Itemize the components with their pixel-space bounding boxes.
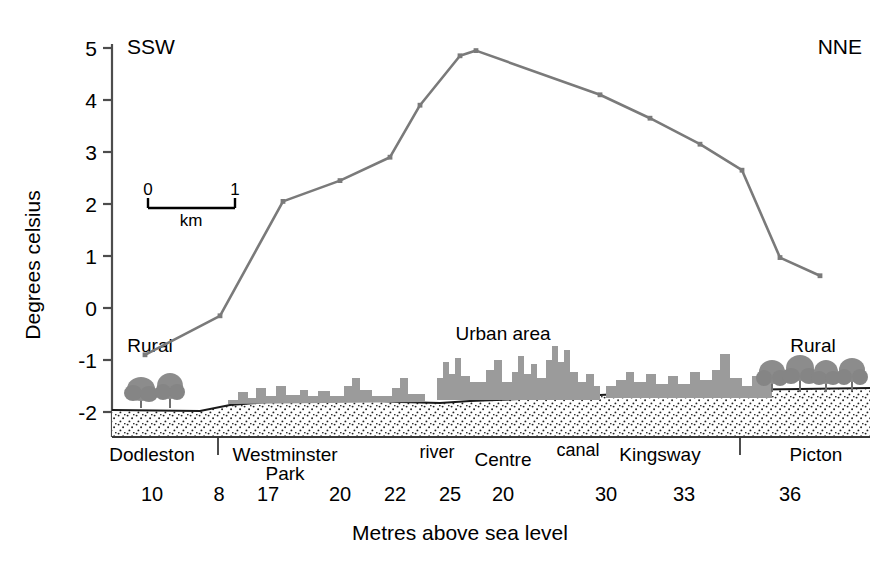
data-point-marker (740, 168, 745, 173)
elevation-number: 8 (213, 483, 224, 505)
place-label: Dodleston (109, 444, 195, 465)
orientation-label-right: NNE (818, 35, 862, 58)
urban-heat-island-chart: 5 4 3 2 1 0 -1 -2 Degrees celsius SSW NN… (0, 0, 891, 570)
scale-bar-right-label: 1 (230, 180, 239, 199)
data-point-marker (338, 178, 343, 183)
y-tick-label: 3 (85, 141, 97, 164)
data-point-marker (598, 92, 603, 97)
elevation-number: 36 (779, 483, 801, 505)
data-point-marker (388, 155, 393, 160)
data-point-marker (698, 142, 703, 147)
elevation-number: 22 (384, 483, 406, 505)
data-point-marker (281, 199, 286, 204)
y-axis-title: Degrees celsius (21, 190, 44, 339)
scale-bar-unit-label: km (180, 211, 203, 230)
place-label: Picton (790, 444, 843, 465)
urban-area-label: Urban area (455, 323, 550, 344)
elevation-number: 25 (439, 483, 461, 505)
data-point-marker (143, 352, 148, 357)
elevation-number: 10 (141, 483, 163, 505)
place-label: Kingsway (619, 444, 701, 465)
data-point-marker (818, 273, 823, 278)
data-point-marker (648, 116, 653, 121)
data-point-marker (218, 313, 223, 318)
place-label: canal (556, 440, 599, 460)
rural-label-right: Rural (790, 335, 835, 356)
elevation-number: 33 (673, 483, 695, 505)
data-point-marker (458, 53, 463, 58)
y-tick-label: 0 (85, 297, 97, 320)
y-tick-label: -1 (78, 349, 97, 372)
elevation-number: 17 (257, 483, 279, 505)
place-label: Westminster (232, 444, 338, 465)
scale-bar-left-label: 0 (143, 180, 152, 199)
place-label: Park (265, 463, 305, 484)
y-tick-label: 2 (85, 193, 97, 216)
y-tick-label: 4 (85, 89, 97, 112)
place-label: river (420, 442, 455, 462)
data-point-marker (418, 103, 423, 108)
x-axis-title: Metres above sea level (352, 521, 568, 544)
data-point-marker (778, 255, 783, 260)
elevation-number: 20 (329, 483, 351, 505)
y-tick-label: -2 (78, 401, 97, 424)
elevation-number: 20 (492, 483, 514, 505)
place-label: Centre (474, 449, 531, 470)
data-point-marker (474, 48, 479, 53)
elevation-number: 30 (595, 483, 617, 505)
y-tick-label: 5 (85, 37, 97, 60)
orientation-label-left: SSW (127, 35, 175, 58)
y-tick-label: 1 (85, 245, 97, 268)
